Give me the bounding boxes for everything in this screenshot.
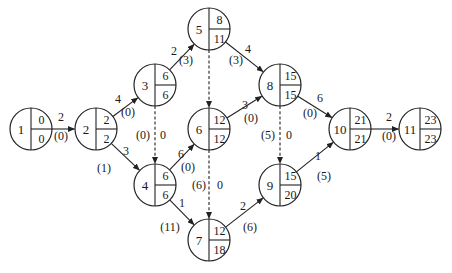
node-top-value: 21 bbox=[355, 113, 367, 127]
edge-duration-label: 1 bbox=[315, 149, 321, 163]
node-top-value: 0 bbox=[39, 113, 45, 127]
node-top-value: 6 bbox=[163, 169, 169, 183]
edge-float-label: (0) bbox=[303, 106, 317, 120]
node-id-label: 5 bbox=[196, 22, 203, 37]
edge-float-label: (0) bbox=[54, 129, 68, 143]
node-10: 102121 bbox=[329, 108, 371, 150]
edge-float-label: (0) bbox=[382, 129, 396, 143]
edge-duration-label: 2 bbox=[58, 110, 64, 124]
node-id-label: 3 bbox=[142, 78, 149, 93]
edge-float-label: (5) bbox=[261, 128, 275, 142]
nodes-layer: 1002223664665811612127121881515915201021… bbox=[10, 8, 441, 261]
node-id-label: 9 bbox=[267, 178, 274, 193]
node-bottom-value: 6 bbox=[163, 88, 169, 102]
node-top-value: 2 bbox=[104, 113, 110, 127]
node-id-label: 2 bbox=[83, 122, 90, 137]
edge-float-label: (1) bbox=[97, 161, 111, 175]
node-top-value: 12 bbox=[214, 113, 226, 127]
node-id-label: 1 bbox=[18, 122, 25, 137]
node-id-label: 10 bbox=[334, 122, 347, 137]
node-3: 366 bbox=[134, 64, 176, 106]
node-bottom-value: 0 bbox=[39, 132, 45, 146]
node-7: 71218 bbox=[188, 219, 230, 261]
edge-float-label: (0) bbox=[136, 128, 150, 142]
edge-float-label: (3) bbox=[179, 53, 193, 67]
edge-float-label: (3) bbox=[229, 53, 243, 67]
node-1: 100 bbox=[10, 108, 52, 150]
node-4: 466 bbox=[134, 164, 176, 206]
node-id-label: 4 bbox=[142, 178, 149, 193]
node-id-label: 11 bbox=[404, 122, 417, 137]
node-bottom-value: 21 bbox=[355, 132, 367, 146]
edge-duration-label: 0 bbox=[286, 128, 292, 142]
edge-duration-label: 2 bbox=[386, 110, 392, 124]
node-bottom-value: 23 bbox=[425, 132, 437, 146]
node-id-label: 7 bbox=[196, 233, 203, 248]
edge-float-label: (5) bbox=[317, 169, 331, 183]
edge-duration-label: 0 bbox=[217, 178, 223, 192]
edge-duration-label: 0 bbox=[160, 128, 166, 142]
node-2: 222 bbox=[75, 108, 117, 150]
node-top-value: 8 bbox=[217, 13, 223, 27]
edge-float-label: (0) bbox=[121, 105, 135, 119]
node-top-value: 12 bbox=[214, 224, 226, 238]
network-diagram: 2(0)4(0)3(1)2(3)0(0)6(0)1(11)4(3)3(0)0(6… bbox=[0, 0, 452, 273]
edge-duration-label: 3 bbox=[242, 98, 248, 112]
node-bottom-value: 2 bbox=[104, 132, 110, 146]
node-5: 5811 bbox=[188, 8, 230, 50]
edge-duration-label: 4 bbox=[245, 42, 251, 56]
edge-float-label: (6) bbox=[243, 220, 257, 234]
node-bottom-value: 20 bbox=[285, 188, 297, 202]
edge-duration-label: 2 bbox=[240, 199, 246, 213]
node-bottom-value: 12 bbox=[214, 132, 226, 146]
node-top-value: 23 bbox=[425, 113, 437, 127]
node-id-label: 6 bbox=[196, 122, 203, 137]
edge-duration-label: 6 bbox=[317, 91, 323, 105]
node-bottom-value: 11 bbox=[214, 32, 226, 46]
edge-float-label: (11) bbox=[160, 220, 180, 234]
node-bottom-value: 15 bbox=[285, 88, 297, 102]
node-bottom-value: 6 bbox=[163, 188, 169, 202]
node-bottom-value: 18 bbox=[214, 243, 226, 257]
edge-duration-label: 2 bbox=[171, 44, 177, 58]
node-top-value: 15 bbox=[285, 169, 297, 183]
node-9: 91520 bbox=[259, 164, 301, 206]
edge-float-label: (0) bbox=[244, 111, 258, 125]
edge-float-label: (0) bbox=[181, 160, 195, 174]
edge-duration-label: 6 bbox=[178, 147, 184, 161]
node-6: 61212 bbox=[188, 108, 230, 150]
edge-duration-label: 3 bbox=[123, 144, 129, 158]
node-top-value: 15 bbox=[285, 69, 297, 83]
node-top-value: 6 bbox=[163, 69, 169, 83]
node-id-label: 8 bbox=[267, 78, 274, 93]
edge-duration-label: 1 bbox=[179, 196, 185, 210]
node-8: 81515 bbox=[259, 64, 301, 106]
edge-duration-label: 4 bbox=[115, 92, 121, 106]
node-11: 112323 bbox=[399, 108, 441, 150]
edge-float-label: (6) bbox=[192, 178, 206, 192]
